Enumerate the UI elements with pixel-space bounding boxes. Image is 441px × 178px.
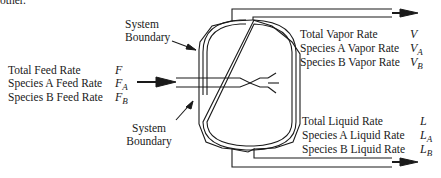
liquid-b-symbol: LB: [420, 143, 432, 160]
feed-b-symbol: FB: [115, 91, 128, 108]
vapor-arrow-icon: [400, 9, 418, 17]
boundary-label-line: System: [125, 18, 170, 31]
system-boundary-label-bottom: System Boundary: [125, 122, 173, 148]
vapor-a-label: Species A Vapor Rate: [300, 42, 399, 55]
vapor-b-symbol: VB: [410, 56, 423, 73]
vessel-wall-inner: [207, 24, 292, 146]
boundary-label-line: System: [125, 122, 173, 135]
vessel-wall: [203, 20, 296, 150]
liquid-arrow-icon: [400, 158, 418, 166]
feed-total-label: Total Feed Rate: [8, 64, 81, 77]
boundary-label-line: Boundary: [125, 135, 173, 148]
vapor-total-label: Total Vapor Rate: [300, 28, 378, 41]
feed-arrow-icon: [156, 77, 176, 87]
liquid-b-label: Species B Liquid Rate: [302, 143, 405, 156]
liquid-a-label: Species A Liquid Rate: [302, 129, 405, 142]
boundary-label-line: Boundary: [125, 31, 170, 44]
vapor-b-label: Species B Vapor Rate: [300, 56, 400, 69]
liquid-total-symbol: L: [420, 115, 427, 128]
boundary-pointer-arrowhead: [186, 44, 196, 50]
vapor-total-symbol: V: [410, 28, 417, 41]
boundary-pointer-arrowhead: [186, 101, 193, 109]
feed-b-label: Species B Feed Rate: [8, 91, 103, 104]
system-boundary-outline: [253, 17, 392, 20]
liquid-total-label: Total Liquid Rate: [302, 115, 383, 128]
feed-a-label: Species A Feed Rate: [8, 77, 102, 90]
system-boundary-label-top: System Boundary: [125, 18, 170, 44]
